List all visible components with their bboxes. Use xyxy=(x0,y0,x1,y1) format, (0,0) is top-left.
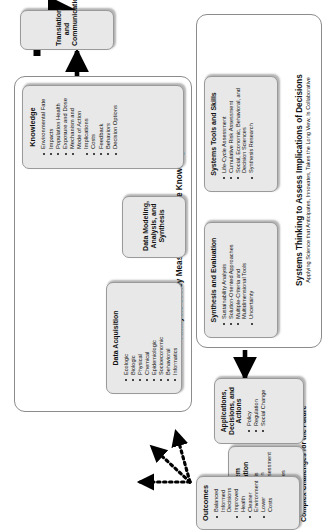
systems-tools-list: Life-Cycle Assessment Cumulative Risk As… xyxy=(221,82,255,186)
list-item: Lower Costs xyxy=(260,481,273,517)
list-item: Physical xyxy=(137,288,143,380)
outcomes-title: Outcomes xyxy=(202,481,210,525)
list-item: Policy xyxy=(246,383,252,431)
list-item: Cleaner Environment xyxy=(247,481,260,517)
list-item: Improved Health xyxy=(233,481,246,517)
list-item: Solution-Oriented Approaches xyxy=(228,228,234,324)
list-item: Informatics xyxy=(172,288,178,380)
systems-tools-title: Systems Tools and Skills xyxy=(210,82,218,186)
data-acquisition-list: Ecologic Biologic Physical Chemical Epid… xyxy=(123,288,178,388)
list-item: Costs xyxy=(90,92,97,154)
list-item: Socioeconomic xyxy=(158,288,164,380)
list-item: Feedback xyxy=(98,92,105,154)
list-item: Biologic xyxy=(130,288,136,380)
knowledge-box[interactable]: Knowledge Environmental Fate Impacts Pop… xyxy=(22,85,184,169)
list-item: Behaviors xyxy=(105,92,112,154)
translation-box[interactable]: Translation and Communication xyxy=(20,10,114,50)
list-item: Exposure and Dose xyxy=(62,92,69,154)
list-item: Life-Cycle Assessment xyxy=(221,82,227,178)
list-item: Ecologic xyxy=(123,288,129,380)
list-item: Regulation xyxy=(253,383,259,431)
list-item: Uncertainty xyxy=(248,228,254,324)
list-item: Mechanism and Mode of Action xyxy=(69,92,82,154)
data-acquisition-box[interactable]: Data Acquisition Ecologic Biologic Physi… xyxy=(106,282,182,394)
list-item: Sustainability Analysis xyxy=(221,228,227,324)
systems-group-subtitle: Applying Science that Anticipates, Innov… xyxy=(305,13,311,347)
knowledge-list: Environmental Fate Impacts Population He… xyxy=(40,92,118,162)
knowledge-title: Knowledge xyxy=(29,92,37,162)
list-item: Chemical xyxy=(144,288,150,380)
diagram-rotation-wrapper: Analysis of Key Measures to Advance Know… xyxy=(0,0,328,530)
list-item: Cumulative Risk Assessment xyxy=(228,82,234,178)
synthesis-evaluation-title: Synthesis and Evaluation xyxy=(210,228,218,332)
list-item: Epidemiologic xyxy=(151,288,157,380)
translation-title: Translation and Communication xyxy=(55,9,78,49)
data-modeling-box[interactable]: Data Modeling, Analysis, and Synthesis xyxy=(122,196,186,258)
diagram-canvas: Analysis of Key Measures to Advance Know… xyxy=(0,0,328,530)
list-item: Social, Economic, Behavioral, and Decisi… xyxy=(235,82,248,178)
list-item: Population Health xyxy=(55,92,62,154)
applications-list: Policy Regulation Social Change xyxy=(246,383,266,439)
applications-box[interactable]: Applications, Decisions, and Actions Pol… xyxy=(214,378,304,444)
data-acquisition-title: Data Acquisition xyxy=(112,288,120,388)
synthesis-evaluation-list: Sustainability Analysis Solution-Oriente… xyxy=(221,228,255,332)
systems-tools-box[interactable]: Systems Tools and Skills Life-Cycle Asse… xyxy=(204,76,278,192)
arrow-feedback-to-systems xyxy=(176,432,190,482)
outcomes-box[interactable]: Outcomes Balanced Informed Decisions Imp… xyxy=(196,476,300,530)
list-item: Synthesis Research xyxy=(248,82,254,178)
applications-title: Applications, Decisions, and Actions xyxy=(220,383,243,439)
list-item: Behavioral xyxy=(165,288,171,380)
systems-group-title: Systems Thinking to Assess Implications … xyxy=(295,13,304,347)
synthesis-evaluation-box[interactable]: Synthesis and Evaluation Sustainability … xyxy=(204,222,278,338)
outcomes-list: Balanced Informed Decisions Improved Hea… xyxy=(213,481,273,525)
list-item: Implications xyxy=(83,92,90,154)
list-item: Impacts xyxy=(48,92,55,154)
list-item: Environmental Fate xyxy=(40,92,47,154)
list-item: Decision Options xyxy=(112,92,119,154)
list-item: Social Change xyxy=(260,383,266,431)
data-modeling-title: Data Modeling, Analysis, and Synthesis xyxy=(142,195,165,257)
list-item: Multiple-Criteria and Multidimensional T… xyxy=(235,228,248,324)
list-item: Balanced Informed Decisions xyxy=(213,481,232,517)
